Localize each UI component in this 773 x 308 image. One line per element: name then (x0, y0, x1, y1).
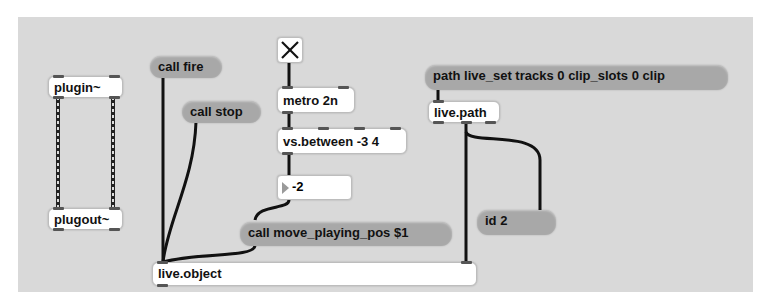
metro-object[interactable]: metro 2n (277, 87, 355, 113)
number-value: -2 (292, 179, 304, 194)
call-move-playing-pos-message[interactable]: call move_playing_pos $1 (240, 222, 452, 246)
live-path-object[interactable]: live.path (428, 101, 500, 123)
toggle-x-icon (278, 38, 302, 62)
vs-between-label: vs.between -3 4 (283, 134, 379, 149)
number-box[interactable]: -2 (277, 175, 352, 200)
call-fire-message[interactable]: call fire (150, 56, 222, 78)
live-object-label: live.object (158, 266, 222, 281)
live-object-object[interactable]: live.object (152, 262, 477, 286)
call-fire-label: call fire (158, 59, 204, 74)
plugin-object[interactable]: plugin~ (48, 76, 123, 98)
patcher-canvas[interactable] (18, 17, 753, 292)
call-move-label: call move_playing_pos $1 (248, 225, 408, 240)
live-path-label: live.path (434, 105, 487, 120)
toggle[interactable] (277, 37, 303, 63)
path-label: path live_set tracks 0 clip_slots 0 clip (433, 68, 665, 83)
call-stop-label: call stop (190, 104, 243, 119)
vs-between-object[interactable]: vs.between -3 4 (277, 128, 407, 154)
metro-label: metro 2n (283, 93, 338, 108)
plugout-label: plugout~ (54, 212, 109, 227)
plugin-label: plugin~ (54, 80, 101, 95)
number-triangle-icon (282, 182, 289, 194)
path-message[interactable]: path live_set tracks 0 clip_slots 0 clip (425, 65, 728, 90)
call-stop-message[interactable]: call stop (182, 101, 261, 123)
id-label: id 2 (485, 213, 507, 228)
id-message[interactable]: id 2 (477, 210, 556, 235)
plugout-object[interactable]: plugout~ (48, 208, 123, 230)
